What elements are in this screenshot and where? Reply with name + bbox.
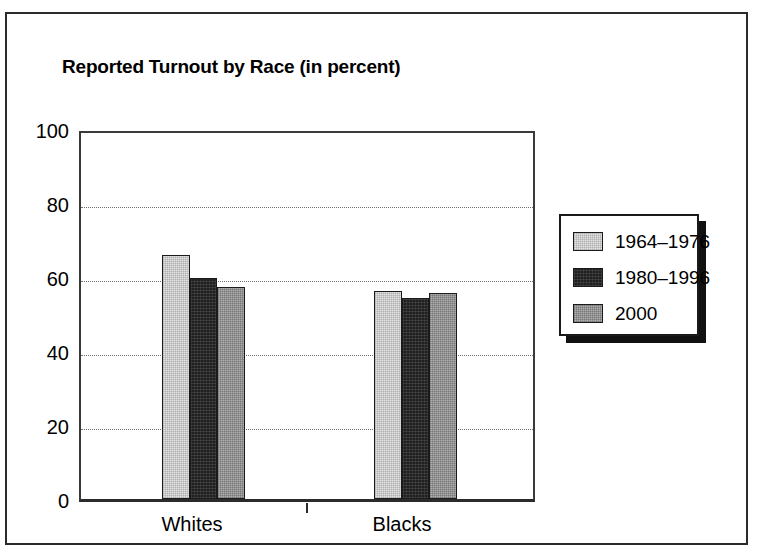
figure-frame: Reported Turnout by Race (in percent) 10…: [5, 12, 748, 545]
legend: 1964–1976 1980–1996 2000: [559, 214, 699, 336]
y-tick-label-100: 100: [11, 121, 69, 141]
bar-blacks-1980-1996: [402, 298, 429, 499]
legend-label-2000: 2000: [615, 304, 657, 323]
legend-item-1964-1976: 1964–1976: [573, 228, 710, 254]
gridline-80: [81, 207, 533, 208]
bar-blacks-1964-1976: [374, 291, 402, 499]
legend-swatch-icon-2000: [573, 304, 603, 323]
y-tick-label-40: 40: [11, 343, 69, 363]
y-tick-label-20: 20: [11, 417, 69, 437]
page-title: Reported Turnout by Race (in percent): [62, 56, 401, 78]
legend-swatch-icon-1980-1996: [573, 268, 603, 287]
axis-center-tick: [306, 503, 308, 513]
legend-label-1964-1976: 1964–1976: [615, 232, 710, 251]
gridline-60: [81, 281, 533, 282]
gridline-20: [81, 429, 533, 430]
legend-label-1980-1996: 1980–1996: [615, 268, 710, 287]
x-tick-label-whites: Whites: [127, 514, 257, 534]
bar-whites-1980-1996: [190, 278, 217, 499]
gridline-40: [81, 355, 533, 356]
legend-item-1980-1996: 1980–1996: [573, 264, 710, 290]
y-tick-label-60: 60: [11, 269, 69, 289]
y-tick-label-0: 0: [11, 491, 69, 511]
bar-blacks-2000: [429, 293, 457, 499]
x-tick-label-blacks: Blacks: [337, 514, 467, 534]
plot-area: [79, 131, 535, 502]
y-tick-label-80: 80: [11, 195, 69, 215]
bar-whites-1964-1976: [162, 255, 190, 499]
bar-whites-2000: [217, 287, 245, 499]
legend-swatch-icon-1964-1976: [573, 232, 603, 251]
legend-item-2000: 2000: [573, 300, 657, 326]
